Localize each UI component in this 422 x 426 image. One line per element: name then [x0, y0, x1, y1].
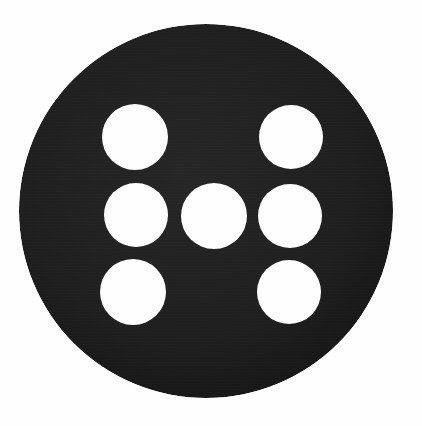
hole-middle-right [258, 184, 322, 248]
hole-bottom-left [100, 259, 166, 325]
perforated-disc-graphic [0, 0, 422, 426]
hole-middle-left [104, 183, 168, 247]
hole-center [181, 183, 247, 249]
image-canvas: Perforated Black Disc A dark circular di… [0, 0, 422, 426]
hole-top-right [259, 105, 323, 169]
hole-top-left [102, 104, 168, 170]
hole-bottom-right [257, 260, 321, 324]
